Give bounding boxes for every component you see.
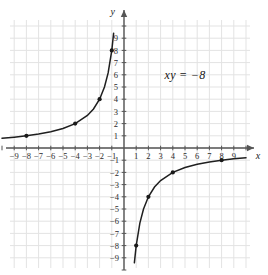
x-tick-label: −7 xyxy=(34,151,43,161)
y-tick-label: 6 xyxy=(114,70,118,80)
x-tick-label: 1 xyxy=(134,151,138,161)
x-tick-label: −4 xyxy=(71,151,81,161)
y-tick-label: −3 xyxy=(110,180,119,190)
y-tick-label: −1 xyxy=(110,155,119,165)
x-tick-label: 3 xyxy=(158,151,162,161)
equation-label: xy = −8 xyxy=(164,68,206,82)
data-point xyxy=(24,134,28,138)
y-tick-label: −7 xyxy=(110,229,119,239)
y-axis-name: y xyxy=(110,6,116,17)
coordinate-plane: −9−8−7−6−5−4−3−2−1123456789123456789−1−2… xyxy=(0,0,268,275)
y-tick-label: 3 xyxy=(114,107,118,117)
x-axis-arrow xyxy=(247,145,254,151)
y-tick-label: 2 xyxy=(114,119,118,129)
x-axis-name: x xyxy=(255,150,261,161)
y-tick-label: 5 xyxy=(114,82,118,92)
data-point xyxy=(98,97,102,101)
x-tick-label: −3 xyxy=(83,151,92,161)
y-tick-label: −2 xyxy=(110,168,119,178)
x-tick-label: −6 xyxy=(46,151,55,161)
x-tick-label: 6 xyxy=(195,151,199,161)
x-tick-label: −9 xyxy=(10,151,19,161)
data-point xyxy=(134,244,138,248)
x-tick-label: −5 xyxy=(58,151,67,161)
x-tick-label: 2 xyxy=(146,151,150,161)
x-tick-label: 8 xyxy=(219,151,223,161)
y-axis-arrow xyxy=(121,10,127,17)
x-tick-label: 9 xyxy=(232,151,236,161)
hyperbola-graph-figure: −9−8−7−6−5−4−3−2−1123456789123456789−1−2… xyxy=(0,0,268,275)
x-tick-label: 7 xyxy=(207,151,211,161)
y-tick-label: 7 xyxy=(114,58,118,68)
y-tick-label: −8 xyxy=(110,241,119,251)
equation-annotation: xy = −8 xyxy=(164,68,206,82)
y-tick-label: 1 xyxy=(114,131,118,141)
y-tick-label: −5 xyxy=(110,204,119,214)
y-tick-label: −6 xyxy=(110,216,119,226)
x-tick-label: −2 xyxy=(95,151,104,161)
data-point xyxy=(171,170,175,174)
grid-lines xyxy=(10,20,250,268)
data-point xyxy=(73,122,77,126)
x-tick-label: 4 xyxy=(171,151,176,161)
x-tick-label: −8 xyxy=(22,151,31,161)
y-tick-label: −4 xyxy=(110,192,120,202)
y-tick-label: 8 xyxy=(114,46,118,56)
grid-background xyxy=(10,20,250,268)
data-point xyxy=(146,195,150,199)
y-tick-label: 9 xyxy=(114,33,118,43)
y-tick-label: −9 xyxy=(110,253,119,263)
x-tick-label: 5 xyxy=(183,151,187,161)
